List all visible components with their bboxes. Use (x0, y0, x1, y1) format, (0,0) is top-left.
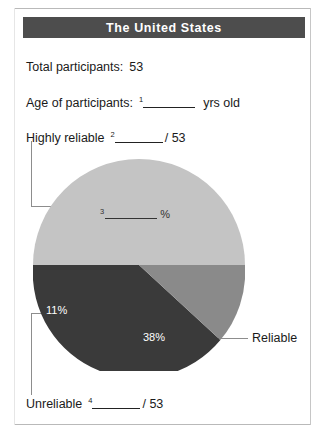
age-unit-label: yrs old (203, 96, 240, 110)
pie-chart (33, 159, 245, 371)
highly-reliable-answer-blank[interactable] (115, 132, 163, 143)
answer-marker-3: 3 (100, 207, 104, 216)
highly-reliable-label: Highly reliable (26, 131, 105, 145)
age-of-participants-label: Age of participants: (26, 96, 133, 110)
leader-line-unreliable-vertical (31, 313, 32, 395)
unreliable-answer-blank[interactable] (92, 398, 140, 409)
percent-sign-label: % (160, 208, 170, 220)
highly-reliable-denominator: / 53 (165, 131, 186, 145)
highly-reliable-percent-blank-row: 3% (100, 207, 170, 220)
total-participants-row: Total participants:53 (26, 60, 143, 74)
pie-chart-svg (33, 159, 245, 371)
unreliable-row: Unreliable4/ 53 (26, 394, 163, 411)
frame-rule-bottom (14, 424, 311, 425)
frame-rule-top (14, 8, 311, 9)
unreliable-denominator: / 53 (142, 397, 163, 411)
page-title: The United States (106, 21, 222, 35)
frame-rule-left (14, 8, 15, 425)
frame-rule-right (310, 8, 311, 425)
age-of-participants-row: Age of participants:1yrs old (26, 93, 240, 110)
age-answer-blank[interactable] (143, 97, 195, 108)
header-banner: The United States (23, 17, 305, 38)
total-participants-label: Total participants: (26, 60, 123, 74)
unreliable-label: Unreliable (26, 397, 82, 411)
callout-label-reliable: Reliable (252, 331, 297, 345)
highly-reliable-row: Highly reliable2/ 53 (26, 128, 186, 145)
worksheet-page: The United States Total participants:53 … (0, 0, 329, 437)
pie-label-unreliable-percent: 11% (46, 304, 67, 316)
highly-reliable-percent-blank[interactable] (105, 209, 157, 219)
pie-label-reliable-percent: 38% (143, 331, 165, 343)
leader-line-highly-reliable-vertical (31, 141, 32, 207)
total-participants-value: 53 (129, 60, 143, 74)
